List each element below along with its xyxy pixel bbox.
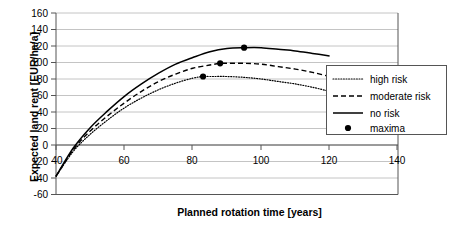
chart-legend: high risk moderate risk no risk maxima (327, 66, 447, 135)
y-tick-label: 0 (42, 140, 48, 151)
x-tick-label: 120 (321, 155, 338, 166)
x-tick-label: 40 (51, 155, 63, 166)
chart-plot-svg: 160 140 120 100 80 60 40 20 0 -20 -40 -6… (0, 0, 449, 230)
legend-label-moderate-risk: moderate risk (370, 91, 432, 102)
maxima-marker (200, 73, 206, 79)
maxima-marker (241, 45, 247, 51)
y-tick-marks (51, 13, 56, 195)
legend-label-maxima: maxima (370, 123, 405, 134)
legend-swatch-maxima (345, 125, 351, 131)
x-tick-label: 140 (389, 155, 406, 166)
x-tick-label: 80 (186, 155, 198, 166)
x-tick-label: 60 (118, 155, 130, 166)
x-tick-label: 100 (253, 155, 270, 166)
x-axis-title: Planned rotation time [years] (0, 206, 449, 218)
legend-label-no-risk: no risk (370, 108, 400, 119)
maxima-marker (217, 60, 223, 66)
chart-container: 160 140 120 100 80 60 40 20 0 -20 -40 -6… (0, 0, 449, 230)
legend-label-high-risk: high risk (370, 74, 408, 85)
y-axis-title: Expected land rent [EUR/ha/a] (28, 17, 40, 197)
x-axis-title-text: Planned rotation time [years] (127, 206, 322, 218)
